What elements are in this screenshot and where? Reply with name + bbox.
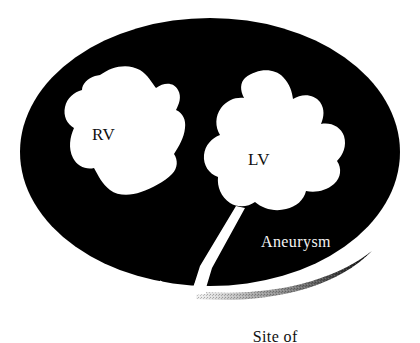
label-right-ventricle: RV	[92, 125, 115, 145]
band-left-tip	[193, 288, 206, 295]
label-left-ventricle: LV	[248, 150, 270, 170]
label-site-of-rupture-line-1: Site of	[248, 328, 302, 343]
label-aneurysm: Aneurysm	[261, 233, 331, 252]
heart-cross-section-illustration	[0, 0, 420, 343]
label-site-of-rupture: Site of Rupture	[248, 291, 302, 343]
cardiac-diagram-figure: RV LV Aneurysm Site of Rupture	[0, 0, 420, 343]
